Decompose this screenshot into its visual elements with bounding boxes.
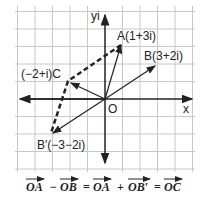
svg-text:+: + [117, 180, 124, 194]
svg-text:OB: OB [60, 180, 77, 194]
y-axis-label: yi [91, 9, 100, 23]
vector-oa [105, 45, 121, 99]
x-axis-label: x [183, 102, 189, 116]
svg-text:OC: OC [164, 180, 182, 194]
vector-ob [105, 66, 155, 99]
svg-text:=: = [83, 180, 90, 194]
svg-text:OB′: OB′ [128, 180, 148, 194]
svg-text:−: − [50, 180, 57, 194]
svg-text:=: = [154, 180, 161, 194]
parallelogram-dashes [51, 45, 121, 133]
point-b-label: B(3+2i) [144, 49, 183, 63]
svg-text:OA: OA [93, 180, 110, 194]
svg-text:OA: OA [26, 180, 43, 194]
point-a-label: A(1+3i) [117, 29, 156, 43]
point-b-prime-label: B′(−3−2i) [37, 138, 85, 152]
complex-plane-diagram: yi x O A(1+3i) B(3+2i) (−2+i)C B′(−3−2i)… [0, 0, 206, 207]
equation: OA − OB = OA + OB′ = OC [26, 179, 182, 194]
point-c-label: (−2+i)C [21, 67, 61, 81]
origin-label: O [108, 102, 117, 116]
